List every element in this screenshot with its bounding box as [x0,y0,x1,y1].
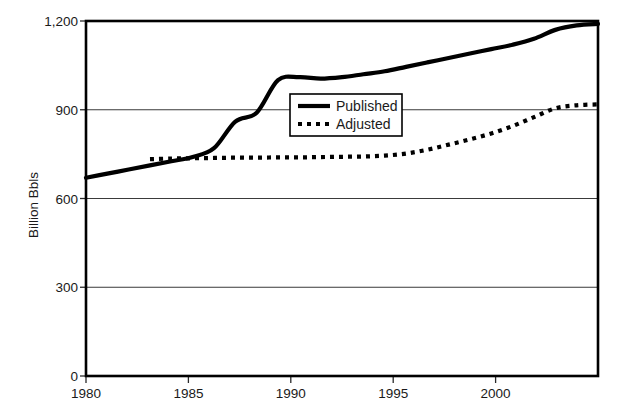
y-tick-label-0: 0 [70,369,78,384]
x-tick-label-2000: 2000 [481,386,511,401]
x-tick-label-1995: 1995 [378,386,408,401]
legend-label-published: Published [336,98,398,114]
chart-legend: Published Adjusted [290,94,402,136]
legend-label-adjusted: Adjusted [336,116,390,132]
y-axis-title: Billion Bbls [26,172,41,238]
x-tick-label-1985: 1985 [173,386,203,401]
x-tick-label-1980: 1980 [71,386,101,401]
x-tick-label-1990: 1990 [276,386,306,401]
chart-container: 0 300 600 900 1,200 Billion Bbls 1980 [0,0,628,419]
y-tick-label-1200: 1,200 [44,14,78,29]
y-axis-tick-labels: 0 300 600 900 1,200 [44,14,78,384]
y-tick-label-300: 300 [55,280,78,295]
y-tick-label-600: 600 [55,192,78,207]
x-axis-tick-labels: 1980 1985 1990 1995 2000 [71,386,511,401]
line-chart: 0 300 600 900 1,200 Billion Bbls 1980 [0,0,628,419]
y-tick-label-900: 900 [55,103,78,118]
